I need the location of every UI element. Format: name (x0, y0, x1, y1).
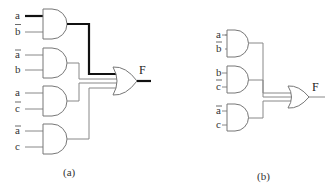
and-gate-b3: a c (216, 104, 249, 131)
wire-g4-to-or (67, 88, 117, 139)
input-label-c: c (15, 140, 20, 152)
highlighted-wire (67, 24, 117, 74)
input-label-b-not: b (15, 25, 21, 37)
and-gate-a3: a c (15, 86, 67, 116)
and-gate-shape (43, 124, 67, 154)
and-gate-shape (227, 30, 249, 57)
input-label-c-not: c (15, 102, 20, 114)
input-label-b-not: b (216, 42, 222, 54)
and-gate-a4: a c (15, 124, 67, 154)
wire-g1-to-or (248, 43, 291, 93)
and-gate-shape (227, 104, 249, 131)
or-gate-shape (113, 67, 137, 95)
input-label-a: a (216, 28, 221, 40)
wire-g2-to-or (248, 80, 291, 97)
and-gate-b1: a b (216, 28, 249, 57)
and-gate-b2: b c (216, 66, 249, 93)
output-label-F: F (312, 80, 319, 94)
and-gate-shape (227, 66, 249, 93)
and-gate-a1: a b (15, 9, 67, 39)
caption-a: (a) (63, 166, 76, 179)
input-label-b: b (216, 66, 222, 78)
input-label-a: a (15, 9, 20, 21)
input-label-b: b (15, 63, 21, 75)
and-gate-a2: a b (15, 48, 67, 78)
wire-g2-to-or (67, 63, 117, 79)
wire-g3-to-or (248, 101, 291, 118)
or-gate-shape (288, 86, 309, 108)
panel-a: a b a b a c a c (15, 9, 151, 179)
panel-b: a b b c a c (216, 28, 325, 183)
output-label-F: F (139, 63, 146, 77)
input-label-c: c (216, 118, 221, 130)
wire-g3-to-or (67, 83, 117, 101)
caption-b: (b) (257, 170, 270, 183)
and-gate-shape (43, 48, 67, 78)
and-gate-shape (43, 9, 67, 39)
input-label-c-not: c (216, 80, 221, 92)
and-gate-shape (43, 86, 67, 116)
input-label-a: a (15, 86, 20, 98)
logic-diagram: a b a b a c a c (0, 0, 335, 191)
